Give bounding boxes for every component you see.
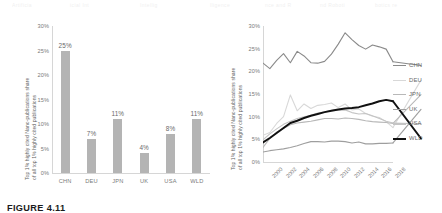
legend-item-deu[interactable]: DEU bbox=[393, 77, 442, 85]
line-chart-y-axis-label-line1: Top 1% highly cited Nano-publications sh… bbox=[230, 68, 236, 170]
bar-chart-y-tick: 10% bbox=[33, 121, 49, 127]
bar-chart-category-label: JPN bbox=[105, 178, 131, 184]
bar-chart-value-label: 4% bbox=[131, 144, 157, 151]
line-chart-x-tick: 2010 bbox=[339, 166, 352, 179]
legend-item-uk[interactable]: UK bbox=[393, 106, 442, 114]
bar-chart-y-tick: 15% bbox=[33, 97, 49, 103]
bar-chart-bar bbox=[166, 134, 175, 173]
bar-chart-y-tick: 5% bbox=[33, 146, 49, 152]
line-chart-y-tick: 30% bbox=[244, 23, 260, 29]
bar-chart-y-axis-label-line1: Top 1% highly cited Nano-publications sh… bbox=[24, 78, 30, 180]
bar-chart-bar bbox=[87, 139, 96, 173]
line-chart-series-usa bbox=[263, 110, 393, 140]
legend-swatch-usa bbox=[393, 123, 406, 124]
line-chart-y-tick: 20% bbox=[244, 68, 260, 74]
line-chart-x-tick: 2004 bbox=[298, 166, 311, 179]
line-chart-x-tick: 2000 bbox=[271, 166, 284, 179]
bar-chart-y-tick: 30% bbox=[33, 23, 49, 29]
bar-chart-value-label: 11% bbox=[105, 110, 131, 117]
legend-label-deu: DEU bbox=[409, 77, 422, 83]
line-chart-x-tick: 2018 bbox=[394, 166, 407, 179]
legend-item-usa[interactable]: USA bbox=[393, 120, 442, 128]
line-chart-x-tick: 2006 bbox=[312, 166, 325, 179]
legend-label-chn: CHN bbox=[409, 62, 422, 68]
line-chart-y-tick: 15% bbox=[244, 91, 260, 97]
bar-chart-y-tick: 20% bbox=[33, 72, 49, 78]
legend-item-chn[interactable]: CHN bbox=[393, 62, 442, 70]
line-chart-y-tick: 10% bbox=[244, 114, 260, 120]
line-chart-x-tick: 2012 bbox=[353, 166, 366, 179]
bar-chart-value-label: 8% bbox=[158, 125, 184, 132]
line-chart-series-uk bbox=[263, 141, 393, 152]
line-chart-legend: CHNDEUJPNUKUSAWLD bbox=[393, 62, 442, 152]
bar-chart-bar bbox=[61, 51, 70, 174]
legend-swatch-chn bbox=[393, 65, 406, 66]
legend-swatch-jpn bbox=[393, 94, 406, 95]
bar-chart-category-label: WLD bbox=[184, 178, 210, 184]
legend-item-jpn[interactable]: JPN bbox=[393, 91, 442, 99]
legend-label-jpn: JPN bbox=[409, 91, 421, 97]
legend-label-usa: USA bbox=[409, 120, 422, 126]
bar-chart-value-label: 7% bbox=[79, 130, 105, 137]
line-chart-series-jpn bbox=[263, 118, 393, 147]
legend-label-uk: UK bbox=[409, 106, 417, 112]
legend-label-wld: WLD bbox=[409, 135, 423, 141]
line-chart-x-tick: 2014 bbox=[366, 166, 379, 179]
bar-chart-category-label: DEU bbox=[79, 178, 105, 184]
bar-chart-y-axis-label-line2: of all top 1% highly cited publications bbox=[31, 95, 37, 180]
bar-chart-bar bbox=[113, 119, 122, 173]
bar-chart-x-axis bbox=[52, 173, 210, 174]
line-chart-x-tick: 2008 bbox=[325, 166, 338, 179]
bar-chart-panel: Top 1% highly cited Nano-publications sh… bbox=[0, 0, 221, 192]
bar-chart-bar bbox=[140, 153, 149, 173]
legend-swatch-deu bbox=[393, 80, 406, 81]
legend-item-wld[interactable]: WLD bbox=[393, 135, 442, 143]
line-chart-y-tick: 5% bbox=[244, 136, 260, 142]
legend-swatch-wld bbox=[393, 138, 406, 140]
line-chart-y-axis-label-line2: of all top 1% highly cited publications bbox=[237, 85, 243, 170]
figure-4-11: Artificiaicial Int Intelliglligence nce … bbox=[0, 0, 442, 213]
line-chart-y-tick: 0% bbox=[244, 159, 260, 165]
bar-chart-value-label: 25% bbox=[52, 42, 78, 49]
figure-caption: FIGURE 4.11 bbox=[7, 203, 66, 213]
line-chart-panel: Top 1% highly cited Nano-publications sh… bbox=[221, 0, 442, 192]
legend-swatch-uk bbox=[393, 109, 406, 110]
bar-chart-y-tick: 0% bbox=[33, 170, 49, 176]
bar-chart-bar bbox=[192, 119, 201, 173]
line-chart-x-tick: 2002 bbox=[284, 166, 297, 179]
line-chart-y-tick: 25% bbox=[244, 46, 260, 52]
bar-chart-y-tick: 25% bbox=[33, 48, 49, 54]
bar-chart-category-label: CHN bbox=[52, 178, 78, 184]
line-chart-x-tick: 2016 bbox=[380, 166, 393, 179]
line-chart-series-chn bbox=[263, 33, 393, 69]
bar-chart-value-label: 11% bbox=[184, 110, 210, 117]
bar-chart-category-label: USA bbox=[158, 178, 184, 184]
bar-chart-category-label: UK bbox=[131, 178, 157, 184]
